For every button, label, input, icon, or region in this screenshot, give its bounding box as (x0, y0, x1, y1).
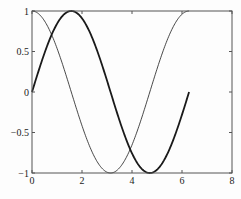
x-tick-label: 8 (230, 175, 235, 186)
y-tick-label: −0.5 (11, 127, 29, 138)
curves (32, 11, 189, 173)
line-chart: 02468 −1−0.500.51 (0, 0, 241, 199)
x-axis-ticks: 02468 (30, 11, 235, 186)
x-tick-label: 2 (80, 175, 85, 186)
plot-frame (32, 11, 232, 173)
x-tick-label: 6 (180, 175, 185, 186)
y-tick-label: 0 (24, 87, 29, 98)
y-tick-label: −1 (18, 168, 29, 179)
y-tick-label: 0.5 (17, 46, 30, 57)
sin-curve (32, 11, 189, 173)
y-axis-ticks: −1−0.500.51 (11, 6, 232, 179)
y-tick-label: 1 (24, 6, 29, 17)
x-tick-label: 0 (30, 175, 35, 186)
x-tick-label: 4 (130, 175, 135, 186)
